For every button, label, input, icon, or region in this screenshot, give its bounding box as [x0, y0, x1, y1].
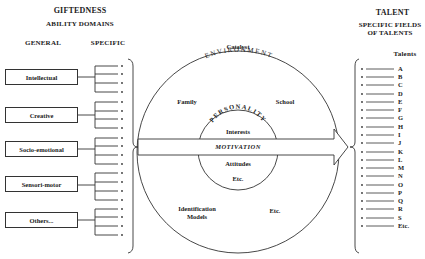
etc-outer-label: Etc. [265, 207, 285, 214]
talent-item: K [398, 148, 403, 156]
family-label: Family [172, 98, 202, 105]
talent-item: Q [398, 197, 403, 205]
attitudes-label: Attitudes [218, 160, 258, 167]
talent-item: R [398, 205, 403, 213]
talent-item: E [398, 98, 402, 106]
talent-item: M [398, 164, 404, 172]
talent-item: C [398, 81, 403, 89]
motivation-label: MOTIVATION [205, 143, 271, 150]
school-label: School [270, 98, 300, 105]
talent-item: I [398, 131, 401, 139]
personality-label: PERSONALITY [208, 103, 268, 124]
creative-branches [78, 102, 118, 128]
diagram-graphics: ENVIRONMENT PERSONALITY [0, 0, 425, 259]
left-brace [128, 59, 138, 253]
talent-item: F [398, 106, 402, 114]
identification-label: Identification [172, 205, 222, 212]
talent-dots [361, 68, 363, 227]
talent-item: P [398, 189, 402, 197]
interests-label: Interests [218, 128, 258, 135]
talent-item: N [398, 172, 403, 180]
talent-item: G [398, 114, 403, 122]
talent-item: O [398, 181, 403, 189]
sensori-motor-branches [78, 173, 118, 200]
etc-inner-label: Etc. [228, 175, 248, 182]
talent-title: TALENT [360, 8, 425, 17]
specific-ability-dots [121, 65, 123, 236]
talent-subtitle-line1: SPECIFIC FIELDS [355, 21, 425, 29]
right-brace [350, 59, 359, 253]
catalyst-label: Catalyst [218, 43, 258, 50]
intellectual-branches [78, 66, 118, 92]
talent-item: H [398, 123, 403, 131]
talent-item: B [398, 73, 402, 81]
talent-item: Etc. [398, 222, 409, 230]
others-branches [78, 209, 118, 235]
models-label: Models [172, 213, 222, 220]
talents-header: Talents [385, 50, 425, 58]
talent-subtitle-line2: OF TALENTS [355, 29, 425, 37]
talent-lines [366, 69, 394, 226]
talent-item: A [398, 65, 403, 73]
talent-item: J [398, 139, 401, 147]
talent-item: L [398, 156, 402, 164]
talent-item: S [398, 214, 402, 222]
socio-emotional-branches [78, 138, 118, 164]
talent-item: D [398, 90, 403, 98]
